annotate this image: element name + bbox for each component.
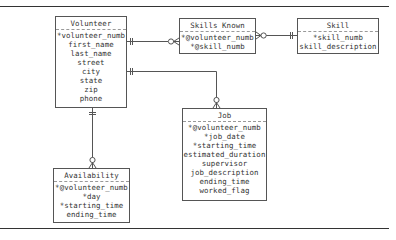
skill-skills-known-link — [256, 32, 297, 39]
attribute: last_name — [56, 49, 126, 58]
attribute: ending_time — [54, 210, 129, 219]
attribute: *volunteer_numb — [56, 31, 126, 40]
attribute: street — [56, 58, 126, 67]
attribute-list: *volunteer_numb first_name last_name str… — [56, 30, 126, 104]
volunteer-skills-known-link — [126, 38, 179, 45]
attribute: zip — [56, 85, 126, 94]
attribute: *@skill_numb — [180, 42, 255, 51]
crow-foot-icon — [256, 32, 261, 36]
zero-circle-icon — [261, 33, 266, 38]
entity-availability[interactable]: Availability *@volunteer_numb *day *star… — [53, 168, 130, 223]
attribute: state — [56, 76, 126, 85]
entity-volunteer[interactable]: Volunteer *volunteer_numb first_name las… — [55, 16, 127, 108]
zero-circle-icon — [168, 39, 173, 44]
attribute-list: *@volunteer_numb *job_date *starting_tim… — [183, 122, 266, 196]
attribute: *skill_numb — [298, 33, 378, 42]
attribute: ending_time — [183, 177, 266, 186]
attribute: skill_description — [298, 42, 378, 51]
attribute: *job_date — [183, 132, 266, 141]
attribute: *day — [54, 192, 129, 201]
attribute-list: *skill_numb skill_description — [298, 32, 378, 52]
attribute: *@volunteer_numb — [54, 183, 129, 192]
entity-title: Job — [183, 109, 266, 122]
attribute: *starting_time — [183, 141, 266, 150]
attribute: job_description — [183, 168, 266, 177]
entity-job[interactable]: Job *@volunteer_numb *job_date *starting… — [182, 108, 267, 201]
attribute: *starting_time — [54, 201, 129, 210]
entity-title: Skills Known — [180, 19, 255, 32]
attribute-list: *@volunteer_numb *day *starting_time end… — [54, 182, 129, 220]
entity-skill[interactable]: Skill *skill_numb skill_description — [297, 18, 379, 54]
attribute: phone — [56, 94, 126, 103]
entity-skills-known[interactable]: Skills Known *@volunteer_numb *@skill_nu… — [179, 18, 256, 54]
attribute: *@volunteer_numb — [180, 33, 255, 42]
attribute-list: *@volunteer_numb *@skill_numb — [180, 32, 255, 52]
volunteer-availability-link — [89, 108, 96, 168]
attribute: supervisor — [183, 159, 266, 168]
attribute: estimated_duration — [183, 150, 266, 159]
entity-title: Skill — [298, 19, 378, 32]
attribute: *@volunteer_numb — [183, 123, 266, 132]
entity-title: Volunteer — [56, 17, 126, 30]
attribute: first_name — [56, 40, 126, 49]
entity-title: Availability — [54, 169, 129, 182]
volunteer-job-link — [126, 68, 220, 108]
attribute: worked_flag — [183, 186, 266, 195]
zero-circle-icon — [90, 157, 95, 162]
zero-circle-icon — [214, 97, 219, 102]
attribute: city — [56, 67, 126, 76]
